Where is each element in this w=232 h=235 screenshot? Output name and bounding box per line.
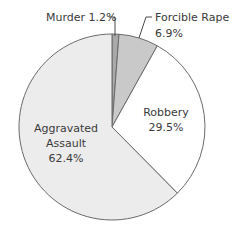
robbery-label-value: 29.5% [149, 121, 184, 134]
assault-label-line2: Assault [46, 137, 87, 150]
murder-label: Murder 1.2% [46, 11, 117, 24]
pie-chart: Murder 1.2% Forcible Rape 6.9% Robbery 2… [0, 0, 232, 235]
assault-label-value: 62.4% [49, 152, 84, 165]
robbery-label-name: Robbery [143, 106, 189, 119]
rape-label-name: Forcible Rape [155, 11, 229, 24]
rape-label-value: 6.9% [155, 27, 183, 40]
assault-label-line1: Aggravated [34, 122, 98, 135]
rape-leader-line [139, 17, 152, 38]
